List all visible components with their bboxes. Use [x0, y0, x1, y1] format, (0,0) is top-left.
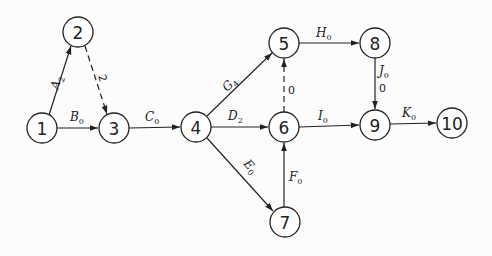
svg-text:9: 9: [370, 116, 381, 136]
label-D: D2: [227, 109, 243, 125]
svg-text:10: 10: [441, 114, 463, 134]
svg-text:7: 7: [280, 213, 291, 233]
svg-text:8: 8: [370, 34, 381, 54]
network-diagram: A2 2 B0 C0 G4 D2 E0 0 F0 H0 I0 J0 0 K0 1…: [0, 0, 492, 256]
label-B: B0: [69, 110, 84, 126]
label-F: F0: [288, 170, 302, 186]
svg-text:6: 6: [279, 118, 290, 138]
edge-6-9: [299, 125, 359, 127]
label-dummy-2-3: 2: [95, 73, 110, 84]
svg-text:4: 4: [191, 118, 202, 138]
label-G: G4: [219, 74, 241, 96]
node-6: 6: [269, 112, 299, 142]
label-I: I0: [317, 109, 328, 125]
label-H: H0: [315, 26, 332, 42]
node-3: 3: [99, 113, 129, 143]
svg-text:3: 3: [109, 119, 120, 139]
edge-labels: A2 2 B0 C0 G4 D2 E0 0 F0 H0 I0 J0 0 K0: [47, 26, 416, 186]
node-9: 9: [360, 110, 390, 140]
svg-text:1: 1: [37, 119, 48, 139]
node-7: 7: [270, 207, 300, 237]
label-K: K0: [401, 106, 416, 122]
edge-9-10: [390, 123, 436, 124]
label-A: A2: [47, 74, 67, 93]
label-C: C0: [145, 110, 159, 126]
node-2: 2: [63, 17, 93, 47]
label-E: E0: [239, 156, 261, 178]
label-dummy-6-5: 0: [288, 84, 295, 97]
svg-text:2: 2: [73, 23, 84, 43]
node-4: 4: [181, 112, 211, 142]
svg-text:5: 5: [279, 34, 290, 54]
edge-4-7: [207, 138, 273, 211]
node-10: 10: [437, 108, 467, 138]
edge-3-4: [129, 127, 180, 128]
node-8: 8: [360, 28, 390, 58]
node-5: 5: [269, 28, 299, 58]
label-J: J0: [376, 64, 389, 80]
node-1: 1: [27, 113, 57, 143]
label-J-value: 0: [379, 82, 386, 95]
